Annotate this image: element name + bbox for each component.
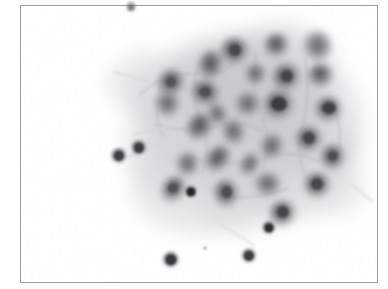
micrograph-canvas <box>21 6 377 282</box>
figure-root <box>0 0 388 289</box>
speck-on-top-frame-edge <box>126 0 136 12</box>
micrograph-frame <box>20 5 378 283</box>
film-grain-overlay <box>21 6 377 282</box>
